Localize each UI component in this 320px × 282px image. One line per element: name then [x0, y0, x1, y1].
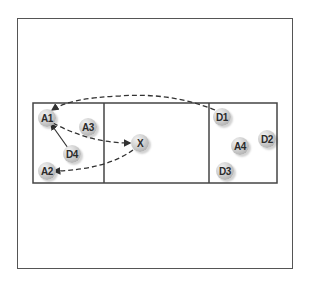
player-token-a4: A4	[231, 137, 249, 155]
player-token-d2: D2	[258, 130, 276, 148]
player-token-x: X	[131, 134, 149, 152]
player-token-a2: A2	[38, 162, 56, 180]
arrow-d4-to-a1	[51, 124, 68, 148]
player-token-a3: A3	[79, 118, 97, 136]
player-token-d3: D3	[216, 162, 234, 180]
player-token-d4: D4	[63, 145, 81, 163]
player-token-a1: A1	[38, 109, 56, 127]
player-token-d1: D1	[213, 108, 231, 126]
